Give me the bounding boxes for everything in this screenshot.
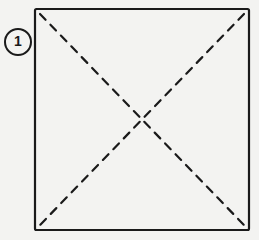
fold-diagram bbox=[0, 0, 259, 240]
step-number: 1 bbox=[5, 28, 31, 54]
